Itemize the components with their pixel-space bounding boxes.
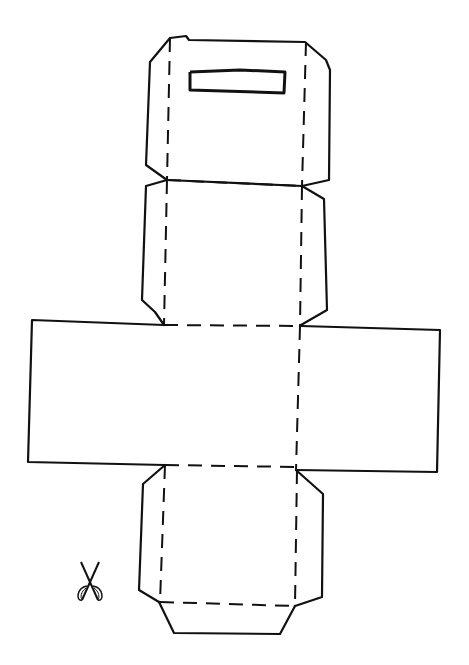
bottom-right-fold bbox=[295, 470, 297, 606]
second-left-fold bbox=[164, 180, 167, 325]
second-right-fold bbox=[300, 186, 302, 326]
bottom-tab-fold bbox=[160, 602, 295, 606]
fold-lines bbox=[160, 38, 306, 606]
box-net-diagram bbox=[0, 0, 469, 665]
middle-bottom-fold bbox=[165, 465, 296, 467]
bottom-tab bbox=[159, 602, 295, 634]
cut-lines bbox=[28, 36, 440, 634]
middle-panel-right bbox=[296, 326, 440, 472]
bottom-right-flap bbox=[295, 470, 323, 606]
handle-slot bbox=[190, 70, 285, 93]
middle-right-fold bbox=[296, 326, 300, 470]
middle-panel-outline bbox=[28, 320, 165, 465]
second-bottom-fold bbox=[164, 325, 300, 326]
scissors-icon bbox=[78, 562, 102, 600]
bottom-left-fold bbox=[160, 465, 165, 602]
second-panel-left-flap bbox=[142, 180, 167, 325]
top-right-fold bbox=[302, 42, 306, 186]
second-panel-right-flap bbox=[301, 186, 327, 325]
top-left-fold bbox=[167, 38, 170, 180]
